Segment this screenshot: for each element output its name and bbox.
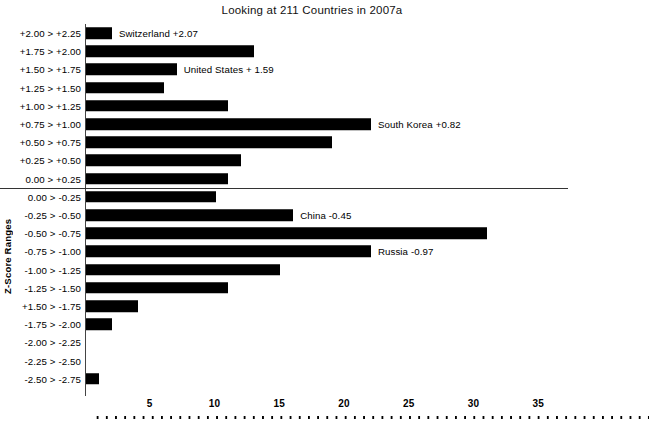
chart-title-text: Looking at 211 Countries in 2007a bbox=[222, 4, 403, 16]
y-axis-tick-label: -2.25 > -2.50 bbox=[24, 355, 81, 366]
bar[interactable] bbox=[86, 100, 228, 112]
bar[interactable] bbox=[86, 300, 138, 312]
bar-row: -2.25 > -2.50 bbox=[85, 352, 568, 370]
y-axis-tick-label: +0.25 > +0.50 bbox=[20, 155, 81, 166]
y-axis-tick-label: -1.00 > -1.25 bbox=[24, 264, 81, 275]
bar-row: -1.75 > -2.00 bbox=[85, 315, 568, 333]
x-axis-tick-label: 35 bbox=[532, 398, 544, 409]
y-axis-tick-label: +1.50 > +1.75 bbox=[20, 64, 81, 75]
bar-annotation: South Korea +0.82 bbox=[378, 119, 461, 130]
bar-row: -2.50 > -2.75 bbox=[85, 370, 568, 388]
x-axis-tick-label: 10 bbox=[209, 398, 221, 409]
chart-title: Looking at 211 Countries in 2007a bbox=[0, 4, 568, 16]
y-axis-tick-label: -0.25 > -0.50 bbox=[24, 210, 81, 221]
bar[interactable] bbox=[86, 282, 228, 294]
y-axis-tick-label: -2.00 > -2.25 bbox=[24, 337, 81, 348]
bar-annotation: China -0.45 bbox=[300, 210, 351, 221]
y-axis-tick-label: +0.75 > +1.00 bbox=[20, 119, 81, 130]
bar-row: 0.00 > -0.25 bbox=[85, 188, 568, 206]
x-axis-tick-label: 15 bbox=[273, 398, 285, 409]
y-axis-tick-label: -0.50 > -0.75 bbox=[24, 228, 81, 239]
bar-row: +1.50 > +1.75United States + 1.59 bbox=[85, 60, 568, 78]
y-axis-tick-label: +1.00 > +1.25 bbox=[20, 100, 81, 111]
plot-area: +2.00 > +2.25Switzerland +2.07+1.75 > +2… bbox=[85, 24, 568, 396]
bar[interactable] bbox=[86, 191, 216, 203]
bar-row: +1.25 > +1.50 bbox=[85, 79, 568, 97]
bar[interactable] bbox=[86, 27, 112, 39]
bar-row: -1.25 > -1.50 bbox=[85, 279, 568, 297]
bar-row: -0.25 > -0.50China -0.45 bbox=[85, 206, 568, 224]
bar-annotation: Russia -0.97 bbox=[378, 246, 434, 257]
y-axis-tick-label: -2.50 > -2.75 bbox=[24, 373, 81, 384]
bar[interactable] bbox=[86, 155, 241, 167]
bar-row: +2.00 > +2.25Switzerland +2.07 bbox=[85, 24, 568, 42]
y-axis-tick-label: -1.25 > -1.50 bbox=[24, 282, 81, 293]
x-axis-tick-label: 20 bbox=[338, 398, 350, 409]
y-axis-label: Z-Score Ranges bbox=[2, 196, 16, 316]
bar-row: 0.00 > +0.25 bbox=[85, 170, 568, 188]
bar[interactable] bbox=[86, 137, 332, 149]
y-axis-tick-label: 0.00 > +0.25 bbox=[25, 173, 81, 184]
x-axis-tick-label: 25 bbox=[403, 398, 415, 409]
y-axis-tick-label: +1.50 > -1.75 bbox=[22, 301, 81, 312]
x-axis-tick-label: 30 bbox=[468, 398, 480, 409]
bar[interactable] bbox=[86, 373, 99, 385]
y-axis-tick-label: +1.25 > +1.50 bbox=[20, 82, 81, 93]
bar-annotation: Switzerland +2.07 bbox=[119, 28, 198, 39]
bar-row: +1.75 > +2.00 bbox=[85, 42, 568, 60]
bar[interactable] bbox=[86, 82, 164, 94]
bar[interactable] bbox=[86, 228, 487, 240]
y-axis-tick-label: 0.00 > -0.25 bbox=[28, 191, 81, 202]
bar[interactable] bbox=[86, 264, 280, 276]
bar-row: -0.50 > -0.75 bbox=[85, 224, 568, 242]
bar[interactable] bbox=[86, 46, 254, 58]
y-axis-tick-label: +0.50 > +0.75 bbox=[20, 137, 81, 148]
bar-annotation: United States + 1.59 bbox=[184, 64, 274, 75]
bar[interactable] bbox=[86, 246, 371, 258]
dotted-rule-divider bbox=[93, 416, 649, 419]
bar-row: +1.00 > +1.25 bbox=[85, 97, 568, 115]
y-axis-tick-label: +1.75 > +2.00 bbox=[20, 46, 81, 57]
bar-row: -1.00 > -1.25 bbox=[85, 261, 568, 279]
bar-row: +0.50 > +0.75 bbox=[85, 133, 568, 151]
x-axis-tick-label: 5 bbox=[147, 398, 153, 409]
y-axis-tick-label: +2.00 > +2.25 bbox=[20, 28, 81, 39]
x-axis: 5101520253035 bbox=[85, 396, 568, 436]
bar-row: +1.50 > -1.75 bbox=[85, 297, 568, 315]
bar-row: -2.00 > -2.25 bbox=[85, 333, 568, 351]
bar[interactable] bbox=[86, 64, 177, 76]
y-axis-tick-label: -1.75 > -2.00 bbox=[24, 319, 81, 330]
bar[interactable] bbox=[86, 118, 371, 130]
bar[interactable] bbox=[86, 209, 293, 221]
bar-row: +0.25 > +0.50 bbox=[85, 151, 568, 169]
bar-row: -0.75 > -1.00Russia -0.97 bbox=[85, 242, 568, 260]
bar[interactable] bbox=[86, 319, 112, 331]
bar[interactable] bbox=[86, 173, 228, 185]
y-axis-tick-label: -0.75 > -1.00 bbox=[24, 246, 81, 257]
bar-row: +0.75 > +1.00South Korea +0.82 bbox=[85, 115, 568, 133]
